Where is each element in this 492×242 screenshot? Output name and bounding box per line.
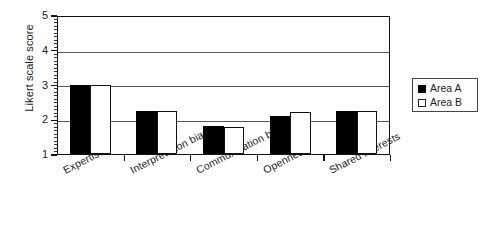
y-tick-label-4: 4 [28,45,48,56]
y-tick-label-3: 3 [28,80,48,91]
y-tick-label-2: 2 [28,114,48,125]
bar-area-b-3 [290,112,311,154]
plot-area [57,16,390,155]
x-tick-1 [190,155,191,161]
y-tick-label-5: 5 [28,10,48,21]
bar-area-a-0 [70,85,91,155]
bar-area-a-1 [136,111,157,154]
x-tick-0 [124,155,125,161]
legend-swatch-filled-square-icon [418,85,426,93]
gridline-4 [58,52,389,53]
x-tick-2 [257,155,258,161]
bar-area-a-3 [270,116,291,154]
bar-area-a-2 [203,126,224,154]
legend-entry-area-b: Area B [418,96,477,109]
bar-area-b-2 [224,127,245,154]
x-tick-4 [390,155,391,161]
legend-label-area-a: Area A [430,83,462,94]
bar-area-b-1 [157,111,178,154]
bar-area-b-4 [357,111,378,154]
y-tick-label-1: 1 [28,149,48,160]
bar-area-a-4 [336,111,357,154]
legend: Area A Area B [412,78,478,112]
x-tick-3 [323,155,324,161]
legend-label-area-b: Area B [430,97,462,108]
chart-figure: Likert scale score 5 4 3 2 1 ExpertiseIn… [0,0,492,242]
bar-area-b-0 [90,85,111,155]
legend-swatch-outlined-square-icon [418,99,426,107]
legend-entry-area-a: Area A [418,82,477,95]
